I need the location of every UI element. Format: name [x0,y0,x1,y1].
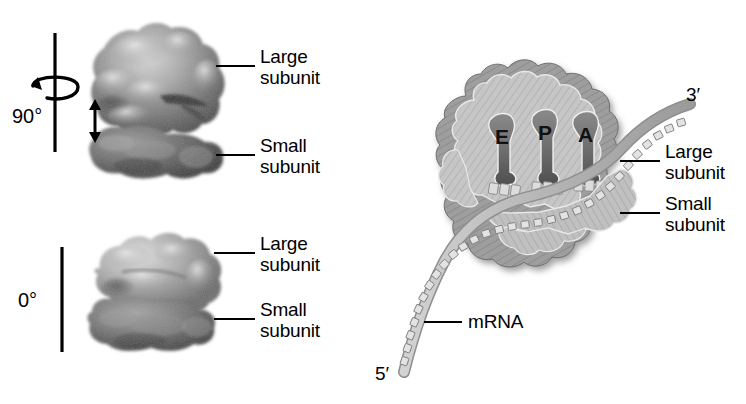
label-three-prime-end: 3′ [686,84,700,106]
label-five-prime-end: 5′ [375,363,389,385]
label-small-subunit-bottom: Small subunit [260,299,320,341]
label-large-subunit-right: Large subunit [665,141,725,183]
rotation-angle-0: 0° [18,289,37,312]
rotation-angle-90: 90° [12,105,42,128]
ribosome-figure: 90° Large subunit Small subunit 0° Large… [0,0,746,404]
label-small-subunit-top: Small subunit [260,135,320,177]
label-small-subunit-right: Small subunit [665,193,725,235]
panel-dissociated-subunits [31,23,255,178]
panel-ribosome-cross-section [400,60,690,372]
site-letter-a: A [578,123,593,147]
large-subunit-3d-top [91,23,224,135]
panel-assembled-ribosome [62,233,255,352]
small-subunit-3d-top [89,126,223,179]
site-letter-e: E [495,125,509,149]
label-large-subunit-top: Large subunit [260,46,320,88]
label-mrna: mRNA [468,311,523,332]
site-letter-p: P [538,121,552,145]
figure-artwork [0,0,746,404]
label-large-subunit-bottom: Large subunit [260,233,320,275]
